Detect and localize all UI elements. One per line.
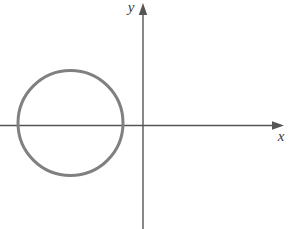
coordinate-plane-figure: x y xyxy=(0,0,294,229)
y-axis-label: y xyxy=(126,0,135,15)
x-axis-label: x xyxy=(277,128,285,144)
figure-canvas: x y xyxy=(0,0,294,229)
figure-background xyxy=(0,0,294,229)
